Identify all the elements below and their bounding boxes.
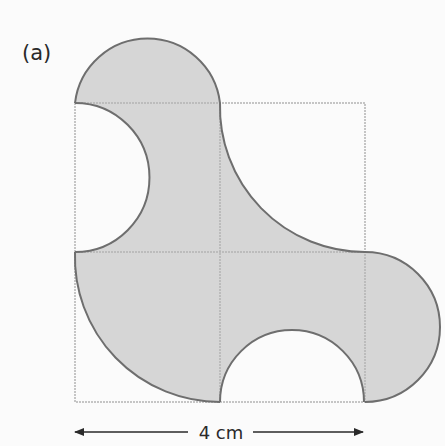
part-label: (a) bbox=[22, 41, 51, 65]
dimension-label: 4 cm bbox=[199, 422, 244, 443]
diagram-canvas: (a) 4 cm bbox=[0, 0, 445, 446]
shaded-region bbox=[75, 39, 440, 402]
dimension-arrow: 4 cm bbox=[75, 422, 363, 443]
